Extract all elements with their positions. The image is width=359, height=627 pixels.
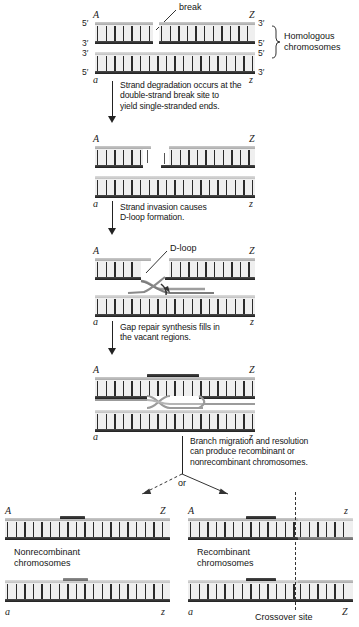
or-label: or <box>178 478 186 488</box>
recombinant-lower-duplex <box>188 580 353 606</box>
crossover-site-label: Crossover site <box>255 612 313 623</box>
chromosome-lower-repaired <box>95 410 255 436</box>
nonrecombinant-lower-duplex <box>5 580 170 606</box>
outcome-right-gene-a: a <box>188 606 193 617</box>
recombinant-caption-line1: Recombinant <box>197 547 254 558</box>
step-3-arrow-line <box>112 321 113 349</box>
homologous-chromosomes-label: Homologous chromosomes <box>284 31 341 53</box>
step-1-arrowhead <box>108 116 116 123</box>
outcome-right-gene-A: A <box>188 505 194 516</box>
stage-initial: break A Z a z 5′ <box>0 0 359 78</box>
nonrecombinant-upper-duplex <box>5 518 170 544</box>
step-2-text: Strand invasion causes D-loop formation. <box>120 202 335 223</box>
chromosome-upper-degraded <box>95 146 255 172</box>
crossover-site-line <box>295 492 296 610</box>
stage-gap-repair: A Z a z <box>0 360 359 435</box>
step-4: Branch migration and resolution can prod… <box>0 436 359 498</box>
nonrecombinant-caption-line1: Nonrecombinant <box>14 547 80 558</box>
homologous-chromosomes-line1: Homologous <box>284 31 341 42</box>
step-3-line1: Gap repair synthesis fills in <box>120 322 335 332</box>
step-1-line2: double-strand break site to <box>120 90 335 100</box>
outcome-left-gene-Z: Z <box>160 505 166 516</box>
recombination-diagram: break A Z a z 5′ <box>0 0 359 627</box>
step-1-line1: Strand degradation occurs at the <box>120 80 335 90</box>
heteroduplex-patch-lower-left <box>63 578 88 581</box>
gene-label-A-dloop: A <box>93 245 99 256</box>
step-3-text: Gap repair synthesis fills in the vacant… <box>120 322 335 343</box>
recombinant-caption: Recombinant chromosomes <box>197 547 254 569</box>
recombinant-upper-duplex <box>188 518 353 544</box>
gene-label-A-degraded: A <box>93 133 99 144</box>
outcome-nonrecombinant: A Z Nonrecombinant chromosomes a z <box>0 500 176 627</box>
heteroduplex-patch-upper-left <box>60 516 85 519</box>
outcome-left-gene-z: z <box>161 606 165 617</box>
outcome-right-gene-z: z <box>344 505 348 516</box>
step-1-line3: yield single-stranded ends. <box>120 101 335 111</box>
step-3: Gap repair synthesis fills in the vacant… <box>0 320 359 360</box>
chromosome-lower-degraded <box>95 176 255 202</box>
chromosome-lower-dloop <box>95 295 255 321</box>
step-2: Strand invasion causes D-loop formation. <box>0 200 359 240</box>
gene-label-Z-repaired: Z <box>249 364 255 375</box>
stage-degradation: A Z a z <box>0 128 359 200</box>
homologous-chromosomes-line2: chromosomes <box>284 42 341 53</box>
step-2-line1: Strand invasion causes <box>120 202 335 212</box>
step-2-arrowhead <box>108 228 116 235</box>
step-1-arrow-line <box>112 81 113 117</box>
outcome-recombinant: A z Recombinant chromosomes <box>183 500 359 627</box>
stage-d-loop: D-loop <box>0 240 359 320</box>
nonrecombinant-caption-line2: chromosomes <box>14 558 80 569</box>
step-2-arrow-line <box>112 201 113 229</box>
gene-label-Z-degraded: Z <box>249 133 255 144</box>
branch-arrows <box>0 436 359 498</box>
recombinant-caption-line2: chromosomes <box>197 558 254 569</box>
heteroduplex-patch-lower-right <box>246 578 276 581</box>
nonrecombinant-caption: Nonrecombinant chromosomes <box>14 547 80 569</box>
gene-label-A-repaired: A <box>93 364 99 375</box>
step-3-arrowhead <box>108 348 116 355</box>
step-1: Strand degradation occurs at the double-… <box>0 80 359 126</box>
outcome-left-gene-a: a <box>5 606 10 617</box>
step-2-line2: D-loop formation. <box>120 212 335 222</box>
step-3-line2: the vacant regions. <box>120 332 335 342</box>
step-1-text: Strand degradation occurs at the double-… <box>120 80 335 111</box>
heteroduplex-patch-upper-right <box>246 516 276 519</box>
gene-label-Z-dloop: Z <box>249 245 255 256</box>
outcome-right-gene-Z: Z <box>342 606 348 617</box>
outcome-left-gene-A: A <box>5 505 11 516</box>
